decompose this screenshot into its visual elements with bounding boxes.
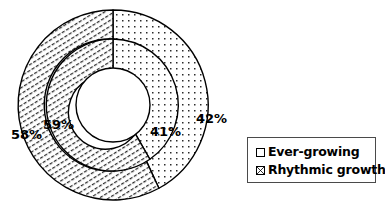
legend-label-rhythmic-growth: Rhythmic growth xyxy=(268,162,385,177)
label-outer-ever-growing: 42% xyxy=(196,111,227,126)
nested-donut-chart: 42% 58% 41% 59% Ever-growing Rhythmic gr… xyxy=(0,0,385,212)
legend-label-ever-growing: Ever-growing xyxy=(268,144,360,159)
label-inner-rhythmic-growth: 59% xyxy=(43,117,74,132)
dot-swatch-icon xyxy=(257,149,265,157)
legend-item-ever-growing[interactable]: Ever-growing xyxy=(257,144,360,159)
chart-figure: 42% 58% 41% 59% Ever-growing Rhythmic gr… xyxy=(0,0,385,212)
label-outer-rhythmic-growth: 58% xyxy=(11,127,42,142)
label-inner-ever-growing: 41% xyxy=(150,124,181,139)
legend-item-rhythmic-growth[interactable]: Rhythmic growth xyxy=(257,162,385,177)
donut-hole xyxy=(76,68,150,142)
legend: Ever-growing Rhythmic growth xyxy=(248,138,385,183)
